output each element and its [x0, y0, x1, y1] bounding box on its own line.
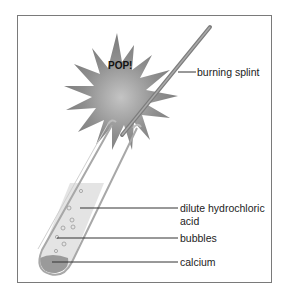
acid-label-line2: acid	[180, 215, 199, 227]
test-tube-icon	[38, 120, 141, 274]
explosion-icon	[64, 33, 178, 150]
splint-label: burning splint	[197, 66, 259, 78]
calcium-label: calcium	[180, 256, 216, 268]
test-tube-diagram	[0, 0, 287, 296]
acid-label-line1: dilute hydrochloric	[180, 202, 265, 214]
bubbles-label: bubbles	[180, 232, 217, 244]
pop-label: POP!	[108, 60, 132, 71]
